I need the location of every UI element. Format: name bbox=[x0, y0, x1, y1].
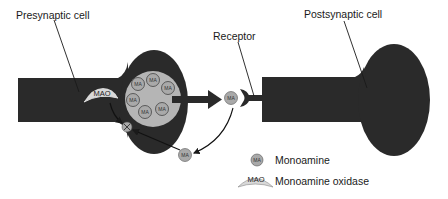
degraded-ma bbox=[122, 122, 132, 132]
vesicle-ma-6: MA bbox=[156, 103, 169, 116]
svg-text:MA: MA bbox=[149, 77, 157, 83]
receptor-pointer bbox=[238, 42, 254, 96]
svg-text:MA: MA bbox=[134, 81, 142, 87]
vesicle-ma-3: MA bbox=[162, 82, 175, 95]
legend-item-monoamine: MA Monoamine bbox=[251, 154, 330, 166]
svg-text:MAO: MAO bbox=[247, 175, 264, 184]
legend: MA Monoamine MAO Monoamine oxidase bbox=[238, 154, 369, 187]
vesicle-ma-2: MA bbox=[147, 74, 160, 87]
svg-text:MA: MA bbox=[227, 95, 235, 101]
svg-text:Monoamine oxidase: Monoamine oxidase bbox=[275, 175, 369, 187]
vesicle-ma-4: MA bbox=[127, 94, 140, 107]
svg-text:MA: MA bbox=[181, 152, 189, 158]
svg-text:MA: MA bbox=[129, 97, 137, 103]
synapse-diagram: MA MA MA MA MA MA MAO MA MA bbox=[0, 0, 448, 199]
return-arrow bbox=[194, 108, 233, 153]
vesicle-ma-5: MA bbox=[139, 106, 152, 119]
postsynaptic-cell bbox=[262, 44, 430, 156]
svg-text:MA: MA bbox=[141, 109, 149, 115]
released-ma: MA bbox=[225, 92, 238, 105]
svg-text:Monoamine: Monoamine bbox=[275, 154, 330, 166]
svg-text:MAO: MAO bbox=[93, 89, 110, 98]
vesicle-ma-1: MA bbox=[132, 78, 145, 91]
reuptake-ma: MA bbox=[179, 149, 192, 162]
receptor bbox=[240, 89, 264, 107]
receptor-label: Receptor bbox=[213, 30, 256, 42]
svg-text:MA: MA bbox=[253, 157, 261, 163]
legend-item-monoamine-oxidase: MAO Monoamine oxidase bbox=[238, 175, 369, 187]
svg-text:MA: MA bbox=[158, 106, 166, 112]
presynaptic-label: Presynaptic cell bbox=[16, 9, 90, 21]
postsynaptic-label: Postsynaptic cell bbox=[304, 8, 382, 20]
svg-text:MA: MA bbox=[164, 85, 172, 91]
